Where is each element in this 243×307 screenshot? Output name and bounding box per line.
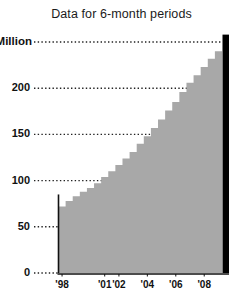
area-series-group <box>59 51 223 273</box>
chart-plot-area <box>0 0 243 307</box>
x-axis-label-04: '04 <box>134 280 160 290</box>
y-axis-label-250Million: $250 Million <box>0 36 32 47</box>
x-axis-label-02: '02 <box>106 280 132 290</box>
area-series-path <box>59 51 223 273</box>
x-axis-label-98: '98 <box>49 280 75 290</box>
highlight-bar-group <box>223 35 230 273</box>
x-axis-label-08: '08 <box>191 280 217 290</box>
y-axis-label-0: 0 <box>0 267 30 278</box>
x-axis-label-06: '06 <box>163 280 189 290</box>
y-axis-label-50: 50 <box>0 221 30 232</box>
y-axis-label-200: 200 <box>0 82 30 93</box>
y-axis-label-150: 150 <box>0 128 30 139</box>
highlight-bar <box>223 35 230 273</box>
y-axis-label-100: 100 <box>0 175 30 186</box>
chart-container: Data for 6-month periods 050100150200$25… <box>0 0 243 307</box>
